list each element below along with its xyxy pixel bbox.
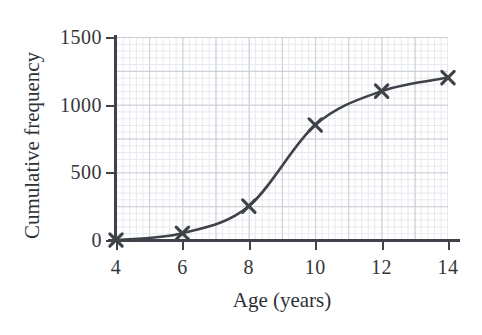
- data-curve-layer: [0, 0, 482, 335]
- data-point-marker: [375, 85, 387, 97]
- chart-figure: 1500 1000 500 0 4 6 8 10 12 14 Cumulativ…: [0, 0, 482, 335]
- cumulative-frequency-curve: [116, 78, 448, 240]
- data-point-marker: [243, 200, 255, 212]
- data-point-markers: [110, 71, 454, 246]
- data-point-marker: [309, 119, 321, 131]
